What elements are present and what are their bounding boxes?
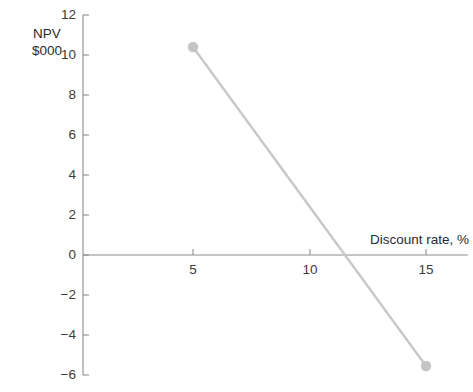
y-tick-label: −6 [40, 368, 76, 382]
y-tick-label: 12 [40, 8, 76, 22]
data-point-marker [188, 42, 198, 52]
y-tick-label: 4 [40, 168, 76, 182]
npv-series-line [193, 47, 426, 366]
x-tick-label: 5 [173, 263, 213, 277]
y-axis-title-line1: NPV [18, 26, 76, 43]
npv-discount-rate-chart: NPV $000 Discount rate, % 12 10 8 6 4 2 … [0, 0, 473, 392]
y-tick-label: 6 [40, 128, 76, 142]
data-point-marker [421, 361, 431, 371]
y-tick-label: 8 [40, 88, 76, 102]
y-tick-label: 0 [40, 248, 76, 262]
x-axis-title: Discount rate, % [370, 232, 469, 249]
y-axis-ticks [83, 15, 89, 375]
y-tick-label: 2 [40, 208, 76, 222]
x-axis-ticks [193, 249, 426, 255]
x-tick-label: 10 [290, 263, 330, 277]
y-tick-label: −4 [40, 328, 76, 342]
x-tick-label: 15 [406, 263, 446, 277]
y-tick-label: 10 [40, 48, 76, 62]
y-tick-label: −2 [40, 288, 76, 302]
